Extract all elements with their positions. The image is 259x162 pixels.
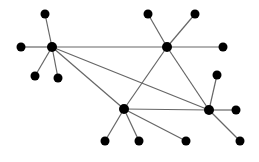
hub-node-A <box>47 42 57 52</box>
nodes-layer <box>17 10 245 146</box>
edge-A-a1 <box>45 14 52 47</box>
edge-C-c3 <box>124 109 186 141</box>
leaf-node-c1 <box>101 137 110 146</box>
leaf-node-a3 <box>31 72 40 81</box>
leaf-node-d3 <box>236 137 245 146</box>
leaf-node-c2 <box>135 137 144 146</box>
leaf-node-b2 <box>191 10 200 19</box>
leaf-node-a2 <box>17 43 26 52</box>
edge-C-c1 <box>105 109 124 141</box>
leaf-node-b3 <box>219 43 228 52</box>
edge-B-b1 <box>148 14 167 47</box>
hub-node-C <box>119 104 129 114</box>
edge-B-D <box>167 47 209 110</box>
hub-node-D <box>204 105 214 115</box>
edge-A-C <box>52 47 124 109</box>
leaf-node-a1 <box>41 10 50 19</box>
leaf-node-c3 <box>182 137 191 146</box>
leaf-node-a4 <box>54 74 63 83</box>
edge-D-d3 <box>209 110 240 141</box>
network-graph <box>0 0 259 162</box>
edge-C-c2 <box>124 109 139 141</box>
edge-A-a3 <box>35 47 52 76</box>
leaf-node-d2 <box>232 106 241 115</box>
leaf-node-b1 <box>144 10 153 19</box>
edge-B-b2 <box>167 14 195 47</box>
hub-node-B <box>162 42 172 52</box>
leaf-node-d1 <box>213 71 222 80</box>
edge-C-D <box>124 109 209 110</box>
edge-D-d1 <box>209 75 217 110</box>
